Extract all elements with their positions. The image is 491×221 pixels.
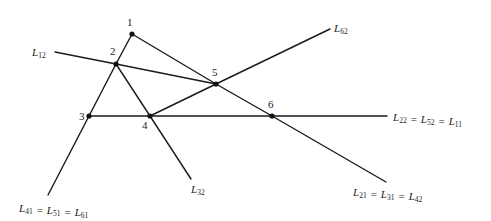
line-4-5-L62: [150, 29, 330, 116]
line-label-L62: L62: [333, 22, 348, 36]
node-3-label: 3: [79, 110, 85, 122]
line-label-L41-L51-L61: L41=L51=L61: [18, 202, 89, 220]
node-3-dot: [86, 113, 91, 118]
node-4-dot: [147, 113, 152, 118]
node-2-label: 2: [110, 45, 116, 57]
node-1-label: 1: [127, 16, 133, 28]
node-4-label: 4: [142, 119, 148, 131]
node-5-label: 5: [212, 66, 218, 78]
node-6-dot: [269, 113, 274, 118]
line-label-L22-L52-L11: L22=L52=L11: [392, 111, 462, 129]
node-labels-group: 123456: [79, 16, 274, 131]
diagram-canvas: 123456 L12L62L32L22=L52=L11L21=L31=L42L4…: [0, 0, 491, 221]
line-intersection-diagram: 123456 L12L62L32L22=L52=L11L21=L31=L42L4…: [0, 0, 491, 221]
line-label-L21-L31-L42: L21=L31=L42: [352, 186, 423, 204]
node-1-dot: [129, 31, 134, 36]
line-label-L12: L12: [31, 46, 46, 60]
node-5-dot: [213, 81, 218, 86]
line-labels-group: L12L62L32L22=L52=L11L21=L31=L42L41=L51=L…: [18, 22, 462, 220]
line-L12: [55, 52, 216, 84]
node-2-dot: [113, 61, 118, 66]
node-6-label: 6: [268, 98, 274, 110]
line-diag-1-5-6: [132, 34, 386, 182]
line-label-L32: L32: [190, 183, 205, 197]
line-2-4-L32: [116, 64, 191, 179]
edges-group: [48, 29, 387, 195]
